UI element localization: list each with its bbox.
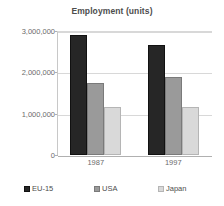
y-axis-tick-label: 3,000,000 — [3, 27, 55, 36]
legend-item-usa[interactable]: USA — [94, 184, 117, 193]
y-axis-tick-label: 2,000,000 — [3, 68, 55, 77]
x-axis: 19871997 — [57, 158, 212, 172]
legend-label: USA — [102, 184, 117, 193]
legend-label: Japan — [166, 184, 186, 193]
y-axis: 01,000,0002,000,0003,000,000 — [0, 31, 55, 155]
chart-title: Employment (units) — [0, 6, 224, 16]
bar-group — [135, 31, 213, 155]
bar-usa-1997[interactable] — [165, 77, 182, 155]
legend-swatch-icon — [24, 186, 30, 192]
bar-eu-15-1997[interactable] — [148, 45, 165, 155]
chart-legend: EU-15USAJapan — [0, 184, 224, 198]
legend-swatch-icon — [94, 186, 100, 192]
y-axis-tick-label: 1,000,000 — [3, 109, 55, 118]
bar-japan-1987[interactable] — [104, 107, 121, 155]
y-axis-tick-label: 0 — [3, 151, 55, 160]
bar-japan-1997[interactable] — [182, 107, 199, 155]
x-axis-tick-label: 1987 — [87, 158, 104, 167]
legend-item-eu-15[interactable]: EU-15 — [24, 184, 53, 193]
legend-label: EU-15 — [32, 184, 53, 193]
bar-usa-1987[interactable] — [87, 83, 104, 155]
bars-layer — [57, 31, 212, 155]
axis-baseline — [58, 156, 212, 157]
employment-bar-chart: Employment (units) 01,000,0002,000,0003,… — [0, 0, 224, 206]
bar-eu-15-1987[interactable] — [70, 35, 87, 155]
legend-item-japan[interactable]: Japan — [158, 184, 186, 193]
x-axis-tick-label: 1997 — [165, 158, 182, 167]
legend-swatch-icon — [158, 186, 164, 192]
bar-group — [57, 31, 135, 155]
